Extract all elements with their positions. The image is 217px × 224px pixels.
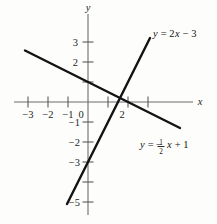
coordinate-plane: −3 −2 −1 2 0 3 2 −1 −2 −3 −5 x y y= 2x− …	[0, 0, 217, 224]
svg-text:y= 2x− 3: y= 2x− 3	[152, 28, 196, 39]
y-tick-label--2: −2	[69, 137, 80, 148]
y-tick-label-2: 2	[73, 57, 78, 68]
fraction-one-half: 1 2	[158, 139, 165, 157]
y-tick-label-3: 3	[73, 37, 78, 48]
y-axis-label: y	[85, 2, 91, 13]
y-tick-label--3: −3	[69, 157, 80, 168]
x-tick-label-2: 2	[119, 109, 124, 120]
axes-group	[14, 14, 193, 215]
eq1-rhs: − 3	[183, 28, 197, 39]
eq2-rhs: + 1	[175, 139, 189, 150]
fraction-numerator: 1	[159, 139, 163, 147]
eq2-lhs: y	[139, 139, 145, 150]
eq1-variable: x	[174, 28, 180, 39]
eq1-lhs: y	[152, 28, 158, 39]
fraction-denominator: 2	[159, 148, 163, 156]
x-axis-label: x	[197, 96, 203, 107]
eq2-variable: x	[166, 139, 172, 150]
equation-label-line1: y= 2x− 3	[152, 28, 196, 39]
svg-text:x+ 1: x+ 1	[166, 139, 188, 150]
equation-label-line2: y= − 1 2 x+ 1	[139, 139, 188, 157]
y-tick-label--1: −1	[69, 117, 80, 128]
x-tick-label--2: −2	[42, 109, 53, 120]
x-tick-label--3: −3	[22, 109, 33, 120]
graph-figure: −3 −2 −1 2 0 3 2 −1 −2 −3 −5 x y y= 2x− …	[0, 0, 217, 224]
eq1-operator: = 2	[161, 28, 175, 39]
